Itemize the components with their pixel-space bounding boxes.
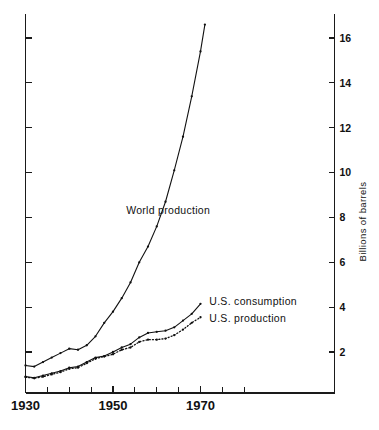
series-point bbox=[156, 331, 158, 333]
series-point bbox=[121, 349, 123, 351]
series-point bbox=[59, 352, 61, 354]
series-point bbox=[164, 201, 166, 203]
series-point bbox=[42, 361, 44, 363]
series-point bbox=[191, 313, 193, 315]
y-axis-title: Billions of barrels bbox=[357, 182, 368, 262]
x-tick-label: 1950 bbox=[99, 398, 128, 413]
series-label: U.S. production bbox=[209, 312, 286, 324]
x-axis-tick-labels: 193019501970 bbox=[11, 398, 215, 413]
series-point bbox=[129, 281, 131, 283]
series-point bbox=[182, 328, 184, 330]
series-point bbox=[129, 343, 131, 345]
x-tick-label: 1970 bbox=[186, 398, 215, 413]
series-point bbox=[164, 330, 166, 332]
series-line bbox=[26, 25, 205, 367]
series-point bbox=[24, 376, 26, 378]
series-point bbox=[86, 344, 88, 346]
series-point bbox=[77, 367, 79, 369]
series-point bbox=[199, 303, 201, 305]
line-chart: 246810121416 193019501970 World producti… bbox=[0, 0, 379, 430]
y-tick-label: 2 bbox=[340, 346, 346, 358]
series-point bbox=[33, 377, 35, 379]
series-point bbox=[173, 169, 175, 171]
series-point bbox=[77, 349, 79, 351]
series-annotations: World productionU.S. consumptionU.S. pro… bbox=[126, 204, 297, 324]
series-point bbox=[68, 347, 70, 349]
series-point bbox=[51, 373, 53, 375]
series-point bbox=[182, 136, 184, 138]
series-point bbox=[51, 356, 53, 358]
series-point bbox=[121, 346, 123, 348]
series-point bbox=[191, 95, 193, 97]
y-tick-label: 4 bbox=[340, 301, 346, 313]
series-point bbox=[199, 316, 201, 318]
chart-figure: 246810121416 193019501970 World producti… bbox=[0, 0, 379, 430]
series-point bbox=[156, 339, 158, 341]
series-point bbox=[204, 23, 206, 25]
series-point bbox=[173, 326, 175, 328]
series-point bbox=[86, 362, 88, 364]
series-point bbox=[94, 358, 96, 360]
y-tick-label: 12 bbox=[340, 122, 352, 134]
series-point bbox=[138, 341, 140, 343]
series-point bbox=[156, 225, 158, 227]
series-point bbox=[112, 353, 114, 355]
series-point bbox=[121, 297, 123, 299]
series-point bbox=[138, 261, 140, 263]
series-point bbox=[147, 245, 149, 247]
series-label: World production bbox=[126, 204, 210, 216]
series-line bbox=[26, 304, 201, 378]
y-tick-label: 6 bbox=[340, 256, 346, 268]
series-point bbox=[112, 351, 114, 353]
series-point bbox=[129, 346, 131, 348]
y-tick-label: 10 bbox=[340, 166, 352, 178]
y-axis-left-ticks bbox=[26, 38, 32, 352]
series-point bbox=[59, 371, 61, 373]
x-axis-ticks bbox=[26, 386, 245, 393]
series-point bbox=[199, 50, 201, 52]
x-tick-label: 1930 bbox=[11, 398, 40, 413]
series-point bbox=[94, 335, 96, 337]
series-label: U.S. consumption bbox=[209, 295, 297, 307]
series-point bbox=[147, 332, 149, 334]
series-point bbox=[164, 337, 166, 339]
y-axis-right-ticks bbox=[329, 38, 335, 352]
series-point bbox=[42, 376, 44, 378]
series-point bbox=[68, 368, 70, 370]
series-point bbox=[33, 365, 35, 367]
series-point bbox=[24, 364, 26, 366]
y-tick-label: 16 bbox=[340, 32, 352, 44]
series-point bbox=[173, 334, 175, 336]
data-series-layer bbox=[24, 23, 206, 379]
series-point bbox=[103, 355, 105, 357]
series-point bbox=[112, 310, 114, 312]
series-point bbox=[147, 339, 149, 341]
series-point bbox=[191, 322, 193, 324]
series-point bbox=[182, 319, 184, 321]
y-tick-label: 14 bbox=[340, 77, 352, 89]
series-point bbox=[103, 322, 105, 324]
y-axis-title-text: Billions of barrels bbox=[357, 182, 368, 262]
y-tick-label: 8 bbox=[340, 211, 346, 223]
y-axis-tick-labels: 246810121416 bbox=[340, 32, 352, 358]
series-point bbox=[138, 336, 140, 338]
